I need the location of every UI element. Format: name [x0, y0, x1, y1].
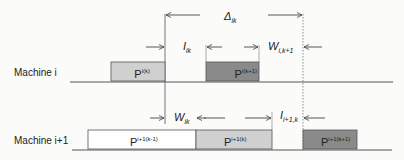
idle-i1-label: Ii+1,k — [280, 109, 299, 123]
schedule-diagram: Δik Iik Wi,k+1 Machine i Pi(k) Pi(k+1) W… — [0, 0, 404, 160]
wait-label: Wi,k+1 — [268, 40, 293, 54]
row-label-machine-i: Machine i — [14, 67, 57, 78]
wait-i1-label: Wik — [174, 111, 190, 125]
idle-label: Iik — [183, 40, 192, 54]
row-label-machine-i1: Machine i+1 — [14, 135, 69, 146]
delta-label: Δik — [223, 10, 237, 24]
